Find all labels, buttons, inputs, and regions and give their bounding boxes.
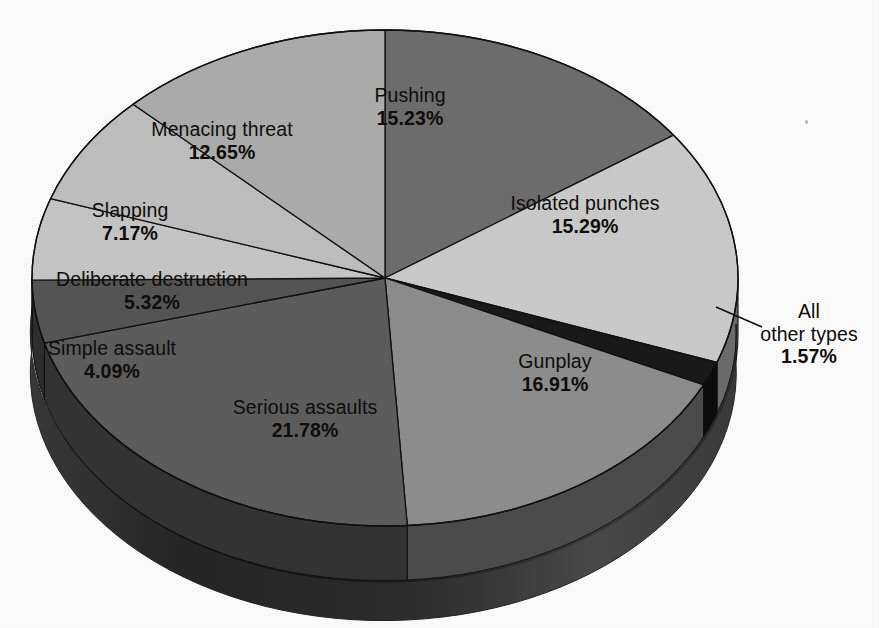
pie-chart-svg (0, 0, 879, 628)
pie-top-face (32, 30, 738, 526)
scan-speck (805, 120, 808, 124)
pie-chart: Pushing 15.23% Isolated punches 15.29% A… (0, 0, 879, 628)
